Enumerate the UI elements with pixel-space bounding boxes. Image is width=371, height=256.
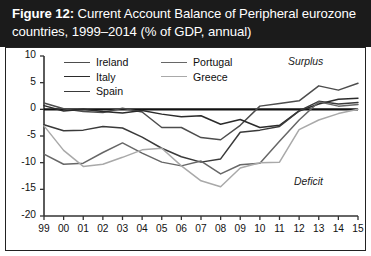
y-axis-tick-label: -10 [10,156,36,167]
legend-item-spain[interactable]: Spain [64,84,128,99]
legend-column-right: Portugal Greece [161,55,232,84]
legend-label-ireland: Ireland [96,56,128,68]
y-axis-tick-label: 10 [10,49,36,60]
y-axis-tick-label: -20 [10,209,36,220]
figure-number-label: Figure 12: [12,6,74,21]
legend-swatch-portugal [161,62,187,63]
y-axis-tick-label: -5 [10,129,36,140]
figure-title-band: Figure 12: Current Account Balance of Pe… [0,0,371,47]
y-axis-tick-label: 0 [10,102,36,113]
annotation-surplus: Surplus [288,56,323,67]
annotation-deficit: Deficit [294,176,323,187]
page-title: Figure 12: Current Account Balance of Pe… [12,5,359,40]
legend-label-portugal: Portugal [193,56,232,68]
legend-swatch-italy [64,76,90,77]
legend-label-italy: Italy [96,71,115,83]
figure-container: Figure 12: Current Account Balance of Pe… [0,0,371,256]
legend-item-portugal[interactable]: Portugal [161,55,232,70]
legend-item-ireland[interactable]: Ireland [64,55,128,70]
legend-column-left: Ireland Italy Spain [64,55,128,99]
chart-legend: Ireland Italy Spain Portugal G [64,55,264,99]
legend-label-greece: Greece [193,71,228,83]
legend-item-greece[interactable]: Greece [161,70,232,85]
y-axis-tick-label: 5 [10,76,36,87]
legend-swatch-greece [161,76,187,77]
y-axis-tick-label: -15 [10,182,36,193]
legend-label-spain: Spain [96,85,123,97]
legend-swatch-ireland [64,62,90,63]
legend-swatch-spain [64,91,90,92]
legend-item-italy[interactable]: Italy [64,70,128,85]
chart-panel: Ireland Italy Spain Portugal G [5,47,366,251]
x-axis-tick-label: 15 [347,223,369,234]
